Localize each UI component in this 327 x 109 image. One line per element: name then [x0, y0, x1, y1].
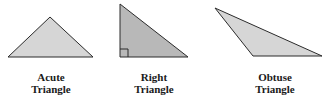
- right-triangle-label: Right Triangle: [119, 71, 189, 95]
- acute-label-line1: Acute: [16, 71, 86, 83]
- right-label-line2: Triangle: [119, 83, 189, 95]
- acute-triangle-shape: [8, 17, 93, 57]
- right-label-line1: Right: [119, 71, 189, 83]
- obtuse-label-line2: Triangle: [240, 83, 310, 95]
- obtuse-triangle-shape: [215, 8, 322, 56]
- acute-label-line2: Triangle: [16, 83, 86, 95]
- right-triangle-shape: [120, 4, 188, 57]
- obtuse-label-line1: Obtuse: [240, 71, 310, 83]
- obtuse-triangle-label: Obtuse Triangle: [240, 71, 310, 95]
- acute-triangle-label: Acute Triangle: [16, 71, 86, 95]
